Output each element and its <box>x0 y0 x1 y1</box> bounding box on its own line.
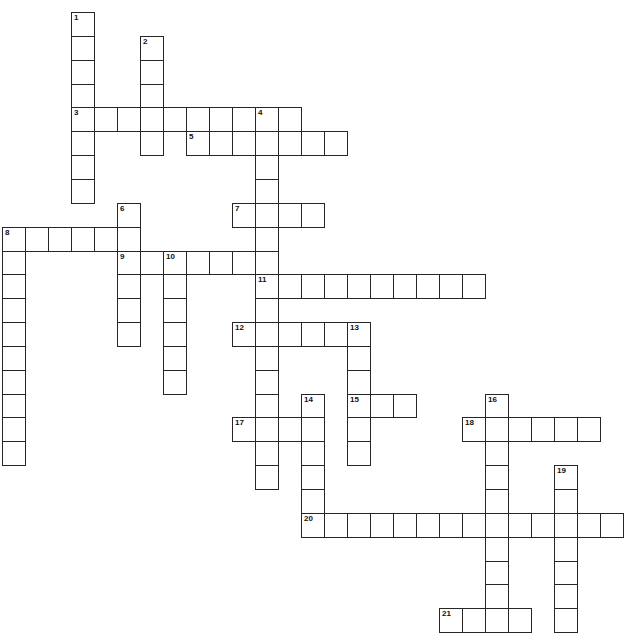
letter-input[interactable] <box>3 323 25 346</box>
letter-input[interactable] <box>72 180 94 203</box>
crossword-cell[interactable]: 8 <box>2 227 26 252</box>
letter-input[interactable] <box>141 252 163 274</box>
crossword-cell[interactable] <box>117 274 141 299</box>
letter-input[interactable] <box>555 490 577 513</box>
letter-input[interactable] <box>141 132 163 155</box>
letter-input[interactable] <box>302 132 324 155</box>
letter-input[interactable] <box>72 132 94 155</box>
crossword-cell[interactable] <box>554 513 578 538</box>
crossword-cell[interactable] <box>347 370 371 395</box>
letter-input[interactable] <box>509 514 531 537</box>
letter-input[interactable] <box>486 562 508 584</box>
letter-input[interactable] <box>555 466 577 489</box>
letter-input[interactable] <box>118 275 140 298</box>
crossword-cell[interactable] <box>71 155 95 180</box>
letter-input[interactable] <box>164 347 186 370</box>
letter-input[interactable] <box>141 61 163 84</box>
letter-input[interactable] <box>302 275 324 298</box>
letter-input[interactable] <box>164 252 186 274</box>
letter-input[interactable] <box>95 228 117 251</box>
crossword-cell[interactable] <box>301 465 325 490</box>
letter-input[interactable] <box>578 418 600 441</box>
letter-input[interactable] <box>417 514 439 537</box>
crossword-cell[interactable] <box>301 274 325 299</box>
crossword-cell[interactable] <box>2 298 26 323</box>
crossword-cell[interactable]: 13 <box>347 322 371 347</box>
letter-input[interactable] <box>256 299 278 322</box>
crossword-cell[interactable] <box>531 417 555 442</box>
letter-input[interactable] <box>256 180 278 203</box>
crossword-cell[interactable] <box>393 394 417 418</box>
letter-input[interactable] <box>394 275 416 298</box>
letter-input[interactable] <box>279 323 301 346</box>
crossword-cell[interactable] <box>508 608 532 633</box>
crossword-cell[interactable] <box>485 537 509 562</box>
letter-input[interactable] <box>279 204 301 227</box>
crossword-cell[interactable] <box>301 489 325 514</box>
crossword-cell[interactable]: 1 <box>71 12 95 37</box>
letter-input[interactable] <box>486 490 508 513</box>
crossword-cell[interactable] <box>554 584 578 609</box>
crossword-cell[interactable] <box>255 227 279 252</box>
letter-input[interactable] <box>279 418 301 441</box>
crossword-cell[interactable] <box>347 346 371 371</box>
crossword-cell[interactable]: 18 <box>462 417 486 442</box>
crossword-cell[interactable] <box>140 60 164 85</box>
crossword-cell[interactable] <box>94 227 118 252</box>
letter-input[interactable] <box>164 299 186 322</box>
letter-input[interactable] <box>164 275 186 298</box>
letter-input[interactable] <box>233 204 255 227</box>
crossword-cell[interactable] <box>71 131 95 156</box>
crossword-cell[interactable]: 9 <box>117 251 141 275</box>
letter-input[interactable] <box>348 323 370 346</box>
letter-input[interactable] <box>394 395 416 417</box>
crossword-cell[interactable] <box>186 107 210 132</box>
letter-input[interactable] <box>3 442 25 465</box>
letter-input[interactable] <box>532 514 554 537</box>
letter-input[interactable] <box>532 418 554 441</box>
letter-input[interactable] <box>302 204 324 227</box>
crossword-cell[interactable]: 6 <box>117 203 141 228</box>
crossword-cell[interactable] <box>347 274 371 299</box>
letter-input[interactable] <box>233 323 255 346</box>
crossword-cell[interactable] <box>301 131 325 156</box>
letter-input[interactable] <box>486 442 508 465</box>
crossword-cell[interactable]: 5 <box>186 131 210 156</box>
letter-input[interactable] <box>555 538 577 561</box>
letter-input[interactable] <box>256 466 278 489</box>
letter-input[interactable] <box>256 108 278 131</box>
crossword-cell[interactable] <box>71 84 95 108</box>
crossword-cell[interactable] <box>324 513 348 538</box>
letter-input[interactable] <box>601 514 623 537</box>
letter-input[interactable] <box>210 252 232 274</box>
crossword-cell[interactable] <box>209 131 233 156</box>
letter-input[interactable] <box>256 418 278 441</box>
crossword-cell[interactable] <box>255 441 279 466</box>
crossword-cell[interactable] <box>324 131 348 156</box>
crossword-cell[interactable] <box>186 251 210 275</box>
letter-input[interactable] <box>118 252 140 274</box>
crossword-cell[interactable] <box>163 370 187 395</box>
letter-input[interactable] <box>256 323 278 346</box>
letter-input[interactable] <box>555 514 577 537</box>
crossword-cell[interactable] <box>48 227 72 252</box>
crossword-cell[interactable] <box>209 251 233 275</box>
letter-input[interactable] <box>509 418 531 441</box>
crossword-cell[interactable] <box>301 417 325 442</box>
crossword-cell[interactable] <box>301 441 325 466</box>
crossword-cell[interactable] <box>600 513 624 538</box>
crossword-cell[interactable] <box>2 394 26 418</box>
letter-input[interactable] <box>3 418 25 441</box>
letter-input[interactable] <box>348 371 370 394</box>
crossword-cell[interactable] <box>25 227 49 252</box>
crossword-cell[interactable] <box>163 298 187 323</box>
crossword-cell[interactable] <box>508 513 532 538</box>
crossword-cell[interactable] <box>232 251 256 275</box>
crossword-cell[interactable] <box>439 274 463 299</box>
crossword-cell[interactable] <box>370 513 394 538</box>
letter-input[interactable] <box>279 132 301 155</box>
letter-input[interactable] <box>3 299 25 322</box>
letter-input[interactable] <box>440 275 462 298</box>
letter-input[interactable] <box>72 85 94 107</box>
crossword-cell[interactable] <box>554 489 578 514</box>
